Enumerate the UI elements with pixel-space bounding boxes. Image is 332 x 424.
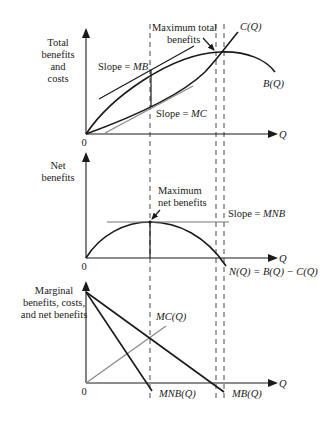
x-label-total: Q	[279, 129, 287, 140]
line-mb	[86, 292, 224, 392]
slope-mb-label: Slope = MB	[98, 61, 149, 72]
slope-mc-label: Slope = MC	[156, 108, 208, 119]
max-net-arrow	[152, 210, 160, 219]
x-label-marginal: Q	[279, 378, 287, 389]
max-total-arrow	[203, 38, 214, 50]
curve-n-label: N(Q) = B(Q) − C(Q)	[228, 266, 318, 278]
curve-b-label: B(Q)	[263, 78, 284, 90]
line-mc	[86, 326, 166, 383]
svg-text:costs: costs	[48, 73, 69, 84]
y-label-total: Total benefits and costs	[41, 37, 74, 84]
origin-label-marginal: 0	[81, 386, 86, 397]
svg-text:benefits: benefits	[41, 49, 74, 60]
line-mb-label: MB(Q)	[231, 388, 262, 400]
svg-text:and: and	[50, 61, 66, 72]
svg-text:Net: Net	[50, 160, 65, 171]
max-total-label-2: benefits	[167, 34, 200, 45]
svg-text:Marginal: Marginal	[35, 285, 73, 296]
y-label-marginal: Marginal benefits, costs, and net benefi…	[21, 285, 87, 320]
origin-label-total: 0	[81, 137, 86, 148]
curve-n	[86, 222, 226, 266]
diagram: Q 0 Total benefits and costs C(Q) B(Q) M…	[0, 0, 332, 424]
panel-net: Q 0 Net benefits Maximum net benefits Sl…	[41, 154, 318, 278]
svg-text:Total: Total	[47, 37, 69, 48]
panel-total: Q 0 Total benefits and costs C(Q) B(Q) M…	[41, 21, 287, 148]
origin-label-net: 0	[81, 261, 86, 272]
line-mc-label: MC(Q)	[155, 311, 187, 323]
max-net-label-1: Maximum	[158, 185, 202, 196]
max-net-label-2: net benefits	[158, 197, 207, 208]
max-total-label-1: Maximum total	[152, 22, 217, 33]
svg-text:and net benefits: and net benefits	[21, 309, 87, 320]
line-mnb-label: MNB(Q)	[158, 388, 196, 400]
x-label-net: Q	[279, 253, 287, 264]
curve-c-label: C(Q)	[240, 21, 262, 33]
svg-text:benefits: benefits	[41, 172, 74, 183]
max-net-point	[148, 220, 151, 223]
svg-text:benefits, costs,: benefits, costs,	[23, 297, 85, 308]
panel-marginal: Q 0 Marginal benefits, costs, and net be…	[21, 283, 287, 400]
y-label-net: Net benefits	[41, 160, 74, 183]
slope-mnb-label: Slope = MNB	[228, 208, 286, 219]
